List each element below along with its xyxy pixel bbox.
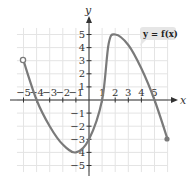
- y-tick-label: 5: [79, 29, 85, 40]
- open-endpoint: [20, 57, 25, 62]
- y-tick-label: −1: [70, 108, 85, 119]
- y-axis-arrow-icon: [86, 16, 92, 23]
- y-tick-label: 4: [79, 42, 85, 53]
- closed-endpoint: [164, 136, 169, 141]
- y-tick-label: −3: [70, 134, 85, 145]
- y-axis-label: y: [84, 4, 92, 17]
- y-tick-label: 2: [79, 68, 85, 79]
- y-tick-label: 1: [79, 81, 85, 92]
- x-tick-label: 2: [112, 87, 118, 98]
- y-tick-label: −5: [70, 160, 85, 171]
- legend: y = f(x): [140, 27, 178, 46]
- function-graph: x y −5−4−3−2−11234554321−1−2−3−4−5 y = f…: [0, 0, 188, 190]
- y-tick-label: 3: [79, 55, 85, 66]
- x-tick-label: 3: [125, 87, 131, 98]
- x-axis-label: x: [180, 94, 187, 107]
- y-tick-label: −2: [70, 121, 85, 132]
- x-tick-label: 4: [138, 87, 144, 98]
- x-axis-arrow-icon: [171, 97, 178, 103]
- legend-label: y = f(x): [142, 29, 178, 39]
